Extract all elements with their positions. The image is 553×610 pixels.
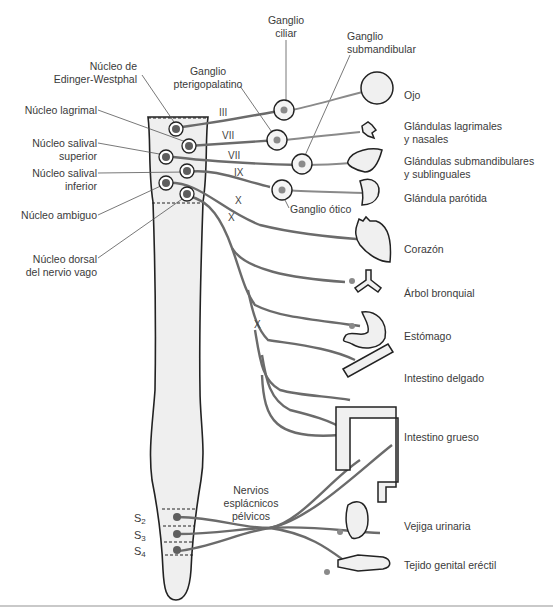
target-label-intestino-delgado: Intestino delgado [404,372,484,385]
segment-number: 3 [141,534,145,543]
target-label-parotida: Glándula parótida [404,192,487,205]
bladder-icon [346,502,368,539]
target-label-corazon: Corazón [404,243,444,256]
label-line: pélvicos [216,510,286,523]
label-nucleo-salival-inferior: Núcleo salival inferior [32,167,97,193]
lacrimal-gland-icon [362,122,376,138]
label-line: Núcleo salival [32,137,97,150]
segment-s4: S4 [134,545,146,561]
label-line: inferior [32,180,97,193]
heart-icon [356,217,391,262]
label-nervios-esplacnicos-pelvicos: Nervios esplácnicos pélvicos [216,484,286,523]
bronchial-tree-icon [355,270,381,292]
target-label-genital: Tejido genital eréctil [404,559,496,572]
label-line: ciliar [265,27,307,40]
label-ganglio-otico: Ganglio ótico [290,203,351,216]
target-label-lagrimales: Glándulas lagrimales y nasales [404,120,502,146]
nerve-label-ix: IX [234,167,243,178]
label-ganglio-submandibular: Ganglio submandibular [347,30,416,56]
ganglia [267,100,312,200]
label-line: Ganglio [347,30,416,43]
label-nucleo-ambiguo: Núcleo ambiguo [21,209,97,222]
label-edinger-westphal: Núcleo de Edinger-Westphal [54,60,137,86]
segment-number: 4 [141,550,145,559]
label-ganglio-ciliar: Ganglio ciliar [265,14,307,40]
target-label-bronquial: Árbol bronquial [404,287,475,300]
label-line: y nasales [404,133,502,146]
eye-icon [361,72,393,104]
postganglionic-nerves [285,89,375,193]
vagus-nerve-branches [188,196,360,436]
label-line: Ganglio [168,65,248,78]
nerve-label-x: X [235,195,242,206]
label-line: superior [32,150,97,163]
label-nucleo-dorsal-vago: Núcleo dorsal del nervio vago [26,253,97,279]
target-label-vejiga: Vejiga urinaria [404,520,471,533]
label-line: del nervio vago [26,266,97,279]
segment-s2: S2 [134,512,146,528]
label-ganglio-pterigopalatino: Ganglio pterigopalatino [168,65,248,91]
label-line: Glándulas lagrimales [404,120,502,133]
nerve-label-iii: III [219,107,227,118]
nerve-label-vii: VII [228,150,240,161]
large-intestine-icon [336,407,398,502]
label-line: pterigopalatino [168,78,248,91]
label-line: Ganglio [265,14,307,27]
target-label-submandibulares: Glándulas submandibulares y sublinguales [404,155,534,181]
label-line: y sublinguales [404,168,534,181]
label-line: Edinger-Westphal [54,73,137,86]
label-nucleo-lagrimal: Núcleo lagrimal [25,104,97,117]
label-line: Núcleo dorsal [26,253,97,266]
nerve-label-vii: VII [222,130,234,141]
small-intestine-icon [343,344,393,377]
segment-s3: S3 [134,529,146,545]
organs [336,72,398,571]
label-line: submandibular [347,43,416,56]
label-line: Glándulas submandibulares [404,155,534,168]
target-label-intestino-grueso: Intestino grueso [404,431,479,444]
target-label-ojo: Ojo [404,89,420,102]
label-line: Núcleo de [54,60,137,73]
submandibular-gland-icon [348,149,382,172]
parotid-gland-icon [360,179,379,205]
genital-tissue-icon [338,555,390,571]
target-label-estomago: Estómago [404,330,451,343]
nerve-label-x: X [228,212,235,223]
label-line: Nervios [216,484,286,497]
label-nucleo-salival-superior: Núcleo salival superior [32,137,97,163]
label-line: esplácnicos [216,497,286,510]
nerve-label-x: X [254,319,261,330]
label-line: Núcleo salival [32,167,97,180]
stomach-icon [344,312,386,348]
segment-number: 2 [141,517,145,526]
